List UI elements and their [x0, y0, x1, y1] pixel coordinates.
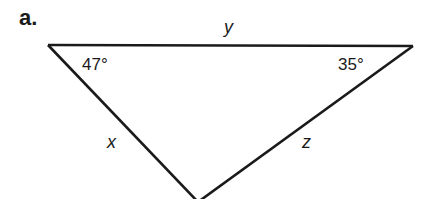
angle-label-top-left: 47°: [82, 56, 108, 73]
side-z-line: [198, 46, 413, 199]
side-x-line: [48, 45, 198, 199]
side-label-x: x: [107, 133, 116, 151]
part-label: a.: [19, 7, 37, 29]
side-label-y: y: [224, 18, 233, 36]
triangle-shape: [0, 0, 431, 199]
side-y-line: [48, 45, 413, 46]
angle-label-top-right: 35°: [338, 56, 364, 73]
side-label-z: z: [302, 133, 311, 151]
triangle-diagram: a. 47° 35° y x z: [0, 0, 431, 199]
